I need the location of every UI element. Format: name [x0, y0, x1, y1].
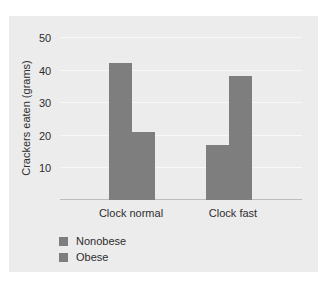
legend-swatch-obese — [59, 253, 68, 262]
y-tick-20: 20 — [34, 130, 56, 142]
gridline-20 — [60, 135, 302, 136]
gridline-50 — [60, 37, 302, 38]
legend-item-nonobese: Nonobese — [59, 233, 126, 249]
x-label-clock-fast: Clock fast — [209, 207, 257, 219]
y-tick-40: 40 — [34, 65, 56, 77]
bar-clock-normal-nonobese — [109, 63, 132, 200]
legend: Nonobese Obese — [59, 233, 126, 265]
legend-swatch-nonobese — [59, 237, 68, 246]
x-axis-baseline — [60, 199, 302, 200]
gridline-30 — [60, 102, 302, 103]
bar-clock-fast-nonobese — [206, 145, 229, 200]
legend-label-obese: Obese — [76, 251, 108, 263]
plot-area — [60, 37, 302, 200]
y-tick-30: 30 — [34, 97, 56, 109]
y-axis-label: Crackers eaten (grams) — [20, 60, 32, 176]
y-tick-50: 50 — [34, 32, 56, 44]
y-tick-10: 10 — [34, 162, 56, 174]
bar-clock-normal-obese — [132, 132, 155, 200]
legend-label-nonobese: Nonobese — [76, 235, 126, 247]
legend-item-obese: Obese — [59, 249, 126, 265]
bar-clock-fast-obese — [229, 76, 252, 200]
x-label-clock-normal: Clock normal — [99, 207, 163, 219]
gridline-10 — [60, 167, 302, 168]
gridline-40 — [60, 70, 302, 71]
